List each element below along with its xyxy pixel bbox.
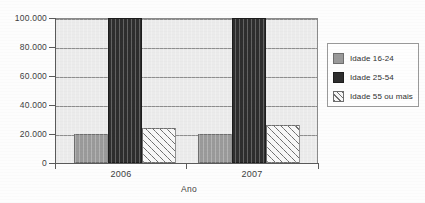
- bar-2006-idade-16-24: [74, 134, 108, 163]
- x-axis-category-2006: 2006: [110, 169, 131, 179]
- legend-item-idade-16-24: Idade 16-24: [333, 49, 414, 68]
- legend-swatch-icon-idade-16-24: [333, 53, 344, 64]
- legend-item-idade-55-ou-mais: Idade 55 ou mais: [333, 87, 414, 106]
- bar-2006-idade-55-ou-mais: [142, 128, 176, 163]
- gridline-60000: [55, 77, 317, 78]
- y-axis-label-20000: 20.000: [0, 129, 47, 139]
- y-axis-label-100000: 100.000: [0, 13, 47, 23]
- x-axis-title: Ano: [0, 184, 378, 194]
- y-axis-label-0: 0: [0, 158, 47, 168]
- gridline-80000: [55, 48, 317, 49]
- legend-label-idade-55-ou-mais: Idade 55 ou mais: [350, 92, 413, 101]
- bar-2007-idade-16-24: [198, 134, 232, 163]
- chart-figure: 100.000 80.000 60.000 40.000 20.000 0 20…: [0, 0, 425, 203]
- x-axis-tick-separator: [186, 164, 187, 169]
- y-axis-line: [55, 18, 56, 164]
- x-axis-tick: [318, 164, 319, 169]
- bar-2007-idade-25-54: [232, 18, 266, 163]
- legend-item-idade-25-54: Idade 25-54: [333, 68, 414, 87]
- legend-label-idade-25-54: Idade 25-54: [350, 73, 394, 82]
- gridline-40000: [55, 106, 317, 107]
- legend-label-idade-16-24: Idade 16-24: [350, 54, 394, 63]
- gridline-100000: [55, 19, 317, 20]
- plot-area: [55, 18, 318, 163]
- x-axis-category-2007: 2007: [241, 169, 262, 179]
- bar-2006-idade-25-54: [108, 18, 142, 163]
- y-axis-label-60000: 60.000: [0, 71, 47, 81]
- legend-swatch-icon-idade-25-54: [333, 72, 344, 83]
- legend-swatch-icon-idade-55-ou-mais: [333, 91, 344, 102]
- y-axis-label-80000: 80.000: [0, 42, 47, 52]
- x-axis-tick: [55, 164, 56, 169]
- legend: Idade 16-24 Idade 25-54 Idade 55 ou mais: [327, 43, 419, 107]
- x-axis-line: [55, 163, 319, 164]
- bar-2007-idade-55-ou-mais: [266, 125, 300, 163]
- y-axis-label-40000: 40.000: [0, 100, 47, 110]
